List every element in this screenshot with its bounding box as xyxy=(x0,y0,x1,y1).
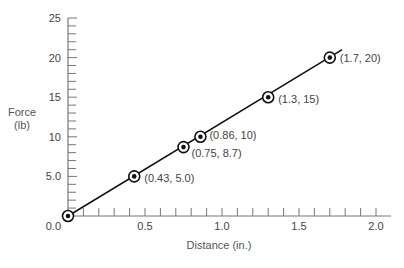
data-point-label: (0.43, 5.0) xyxy=(144,172,194,184)
y-axis-title-force: Force xyxy=(8,106,36,118)
data-point-labels: (0.43, 5.0)(0.75, 8.7)(0.86, 10)(1.3, 15… xyxy=(144,52,381,185)
marker-dot xyxy=(198,135,203,140)
x-tick-label: 0.5 xyxy=(137,220,152,232)
marker-dot xyxy=(266,95,271,100)
axis-ticks xyxy=(68,18,376,216)
data-point-label: (0.75, 8.7) xyxy=(192,147,242,159)
data-point-marker xyxy=(263,92,274,103)
data-point-label: (0.86, 10) xyxy=(209,129,256,141)
data-point-marker xyxy=(195,131,206,142)
origin-label: 0.0 xyxy=(46,220,61,232)
marker-dot xyxy=(66,214,71,219)
marker-dot xyxy=(181,145,186,150)
data-point-label: (1.7, 20) xyxy=(340,52,381,64)
y-tick-label: 5.0 xyxy=(46,170,61,182)
data-point-marker xyxy=(129,171,140,182)
force-distance-chart: 5.0101520250.00.51.01.52.0 (0.43, 5.0)(0… xyxy=(0,0,404,268)
x-tick-label: 1.5 xyxy=(291,220,306,232)
y-axis-title-unit: (lb) xyxy=(14,119,30,131)
data-points xyxy=(63,52,336,221)
data-point-marker xyxy=(178,142,189,153)
data-point-marker xyxy=(63,211,74,222)
y-tick-label: 15 xyxy=(49,91,61,103)
x-tick-label: 2.0 xyxy=(368,220,383,232)
marker-dot xyxy=(132,174,137,179)
y-tick-label: 10 xyxy=(49,131,61,143)
x-tick-label: 1.0 xyxy=(214,220,229,232)
data-point-marker xyxy=(324,52,335,63)
marker-dot xyxy=(328,55,333,60)
y-tick-label: 25 xyxy=(49,12,61,24)
x-axis-title: Distance (in.) xyxy=(187,239,252,251)
y-tick-label: 20 xyxy=(49,52,61,64)
data-point-label: (1.3, 15) xyxy=(278,93,319,105)
